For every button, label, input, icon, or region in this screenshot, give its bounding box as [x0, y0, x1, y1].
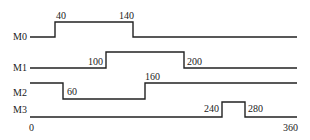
transition-label: 40 [56, 10, 66, 21]
axis-start-label: 0 [29, 122, 34, 133]
waveform [30, 52, 297, 68]
transition-label: 60 [67, 86, 77, 97]
timing-diagram: M0 40 140 M1 100 200 M2 60 160 M3 240 28… [0, 0, 310, 140]
waveform [30, 22, 297, 37]
signal-m0: M0 40 140 [13, 10, 297, 42]
signal-label: M0 [13, 31, 27, 42]
transition-label: 280 [248, 103, 263, 114]
signal-label: M3 [13, 104, 27, 115]
signal-m2: M2 60 160 [13, 71, 297, 99]
transition-label: 240 [204, 103, 219, 114]
signal-m1: M1 100 200 [13, 52, 297, 73]
axis-end-label: 360 [283, 122, 298, 133]
transition-label: 160 [145, 71, 160, 82]
signal-label: M1 [13, 62, 27, 73]
transition-label: 140 [119, 10, 134, 21]
transition-label: 100 [88, 56, 103, 67]
transition-label: 200 [187, 56, 202, 67]
signal-m3: M3 240 280 [13, 102, 297, 117]
signal-label: M2 [13, 87, 27, 98]
